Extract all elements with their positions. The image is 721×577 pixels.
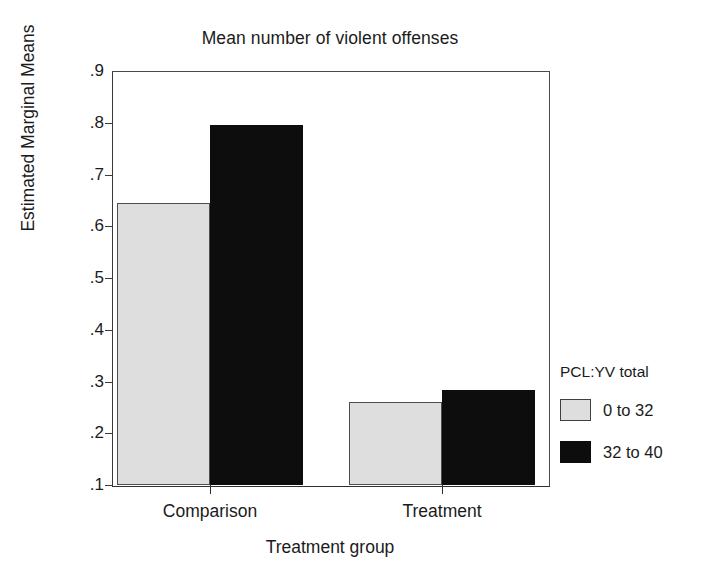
- y-axis-title: Estimated Marginal Means: [18, 0, 39, 278]
- y-axis-tick-label: .6: [40, 216, 104, 236]
- bar-comparison-32-to-40[interactable]: [210, 125, 303, 485]
- chart-title: Mean number of violent offenses: [112, 28, 548, 49]
- y-axis-tick-mark: [105, 278, 112, 279]
- y-axis-tick-label: .9: [40, 61, 104, 81]
- y-axis-tick-mark: [105, 175, 112, 176]
- legend-title: PCL:YV total: [560, 363, 718, 381]
- y-axis-tick-label: .1: [40, 475, 104, 495]
- y-axis-tick-mark: [105, 382, 112, 383]
- legend-item-label: 32 to 40: [603, 443, 663, 462]
- y-axis-tick-label: .8: [40, 113, 104, 133]
- y-axis-tick-label: .2: [40, 423, 104, 443]
- legend: PCL:YV total 0 to 3232 to 40: [560, 363, 718, 479]
- x-axis-tick-mark: [442, 485, 443, 494]
- bar-chart: Mean number of violent offenses Estimate…: [0, 0, 721, 577]
- x-axis-tick-mark: [210, 485, 211, 494]
- x-axis-tick-label: Treatment: [352, 501, 532, 522]
- x-axis-tick-label: Comparison: [120, 501, 300, 522]
- legend-item-32-to-40[interactable]: 32 to 40: [560, 437, 718, 467]
- legend-item-label: 0 to 32: [603, 401, 653, 420]
- legend-entries: 0 to 3232 to 40: [560, 395, 718, 467]
- y-axis-tick-label: .7: [40, 165, 104, 185]
- legend-swatch-icon: [560, 399, 591, 421]
- bar-comparison-0-to-32[interactable]: [117, 203, 210, 485]
- y-axis-tick-label: .4: [40, 320, 104, 340]
- bar-treatment-32-to-40[interactable]: [442, 390, 535, 485]
- y-axis-tick-mark: [105, 433, 112, 434]
- y-axis-tick-mark: [105, 226, 112, 227]
- legend-item-0-to-32[interactable]: 0 to 32: [560, 395, 718, 425]
- y-axis-tick-mark: [105, 123, 112, 124]
- plot-area: .9.8.7.6.5.4.3.2.1 ComparisonTreatment: [112, 71, 548, 485]
- y-axis-tick-label: .5: [40, 268, 104, 288]
- bar-treatment-0-to-32[interactable]: [349, 402, 442, 485]
- y-axis-tick-mark: [105, 485, 112, 486]
- legend-swatch-icon: [560, 441, 591, 463]
- y-axis-tick-label: .3: [40, 372, 104, 392]
- y-axis-tick-mark: [105, 330, 112, 331]
- x-axis-title: Treatment group: [112, 537, 548, 558]
